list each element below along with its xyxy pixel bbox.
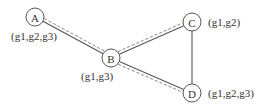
node-c-group-label: (g1,g2) — [208, 16, 240, 29]
edge-b-c-dashed — [118, 23, 183, 52]
edge-b-d-dashed — [118, 64, 182, 92]
annotations-layer: (g1,g2,g3)(g1,g3)(g1,g2)(g1,g2,g3) — [11, 16, 254, 100]
node-a: A — [26, 8, 44, 26]
node-a-group-label: (g1,g2,g3) — [11, 30, 57, 43]
node-letter: D — [188, 88, 196, 100]
edge-b-d-solid — [119, 62, 183, 90]
nodes-layer: ABCD — [26, 8, 201, 102]
node-letter: C — [188, 17, 195, 29]
node-b-group-label: (g1,g3) — [81, 70, 113, 83]
graph-diagram: ABCD (g1,g2,g3)(g1,g3)(g1,g2)(g1,g2,g3) — [0, 0, 262, 109]
node-d: D — [183, 84, 201, 102]
node-letter: A — [31, 12, 39, 24]
edge-b-c-solid — [119, 26, 184, 55]
node-c: C — [183, 13, 201, 31]
node-b: B — [102, 49, 120, 67]
node-letter: B — [107, 53, 114, 65]
node-d-group-label: (g1,g2,g3) — [208, 87, 254, 100]
